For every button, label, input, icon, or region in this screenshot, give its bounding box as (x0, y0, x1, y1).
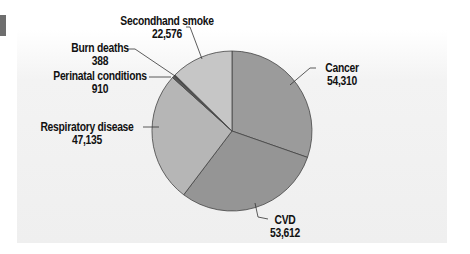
label-respiratory-disease: Respiratory disease 47,135 (33, 121, 141, 147)
label-cvd: CVD 53,612 (259, 214, 311, 240)
label-burn-deaths-value: 388 (66, 55, 135, 68)
label-respiratory-disease-value: 47,135 (33, 134, 141, 147)
label-cancer-value: 54,310 (316, 75, 368, 88)
label-perinatal-conditions-value: 910 (48, 83, 151, 96)
label-secondhand-smoke: Secondhand smoke 22,576 (115, 15, 218, 41)
label-burn-deaths: Burn deaths 388 (66, 42, 135, 68)
label-perinatal-conditions: Perinatal conditions 910 (48, 70, 151, 96)
label-cvd-value: 53,612 (259, 227, 311, 240)
label-secondhand-smoke-value: 22,576 (115, 28, 218, 41)
label-cancer: Cancer 54,310 (316, 62, 368, 88)
